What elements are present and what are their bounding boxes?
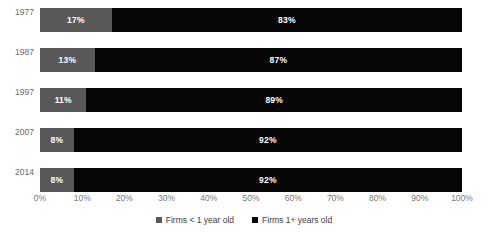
bar-segment-firms-1-plus-years[interactable]: 87% <box>95 48 462 72</box>
bar-value-label: 92% <box>259 176 277 185</box>
bar-value-label: 13% <box>59 56 77 65</box>
plot-area: 1977 17% 83% 1987 13% 87% 1997 11% <box>40 8 462 192</box>
x-tick-label: 80% <box>369 194 386 203</box>
x-tick-label: 50% <box>242 194 259 203</box>
bar-segment-firms-under-1-year[interactable]: 8% <box>40 168 74 192</box>
bar-value-label: 11% <box>55 96 72 105</box>
bar-value-label: 8% <box>51 176 64 185</box>
category-label-1987: 1987 <box>15 48 34 57</box>
bar-value-label: 89% <box>265 96 283 105</box>
x-tick-label: 0% <box>34 194 46 203</box>
x-tick-label: 90% <box>411 194 428 203</box>
legend-label: Firms < 1 year old <box>166 216 234 225</box>
bar-row: 1997 11% 89% <box>40 88 462 112</box>
stacked-bar-chart: 1977 17% 83% 1987 13% 87% 1997 11% <box>0 0 488 234</box>
category-label-2014: 2014 <box>15 168 34 177</box>
x-tick-label: 10% <box>74 194 91 203</box>
x-tick-label: 100% <box>451 194 473 203</box>
square-marker-icon <box>156 217 162 223</box>
category-label-2007: 2007 <box>15 128 34 137</box>
bar-value-label: 8% <box>51 136 64 145</box>
bar-segment-firms-1-plus-years[interactable]: 89% <box>86 88 462 112</box>
category-label-1997: 1997 <box>15 88 34 97</box>
square-marker-icon <box>252 217 258 223</box>
bar-value-label: 83% <box>278 16 296 25</box>
bar-row: 2007 8% 92% <box>40 128 462 152</box>
bar-row: 1977 17% 83% <box>40 8 462 32</box>
x-tick-label: 60% <box>285 194 302 203</box>
bar-segment-firms-1-plus-years[interactable]: 92% <box>74 168 462 192</box>
x-axis: 0% 10% 20% 30% 40% 50% 60% 70% 80% 90% 1… <box>40 194 462 206</box>
legend-item-firms-1-plus-years[interactable]: Firms 1+ years old <box>252 216 332 225</box>
bar-segment-firms-under-1-year[interactable]: 13% <box>40 48 95 72</box>
bar-value-label: 17% <box>67 16 85 25</box>
bar-value-label: 87% <box>270 56 288 65</box>
bar-row: 1987 13% 87% <box>40 48 462 72</box>
bar-segment-firms-1-plus-years[interactable]: 83% <box>112 8 462 32</box>
legend-label: Firms 1+ years old <box>262 216 332 225</box>
chart-legend: Firms < 1 year old Firms 1+ years old <box>0 216 488 225</box>
category-label-1977: 1977 <box>15 8 34 17</box>
bar-segment-firms-under-1-year[interactable]: 11% <box>40 88 86 112</box>
x-tick-label: 20% <box>116 194 133 203</box>
x-tick-label: 40% <box>200 194 217 203</box>
bar-row: 2014 8% 92% <box>40 168 462 192</box>
bar-segment-firms-under-1-year[interactable]: 8% <box>40 128 74 152</box>
bar-value-label: 92% <box>259 136 277 145</box>
x-tick-label: 70% <box>327 194 344 203</box>
legend-item-firms-under-1-year[interactable]: Firms < 1 year old <box>156 216 234 225</box>
bar-segment-firms-1-plus-years[interactable]: 92% <box>74 128 462 152</box>
x-tick-label: 30% <box>158 194 175 203</box>
bar-segment-firms-under-1-year[interactable]: 17% <box>40 8 112 32</box>
